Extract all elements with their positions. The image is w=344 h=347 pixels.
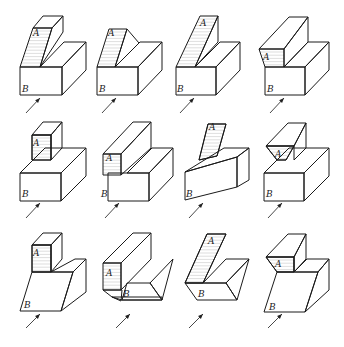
block-views-svg: ABABABABABABABABABABABAB bbox=[0, 0, 344, 347]
figure-r3c3: AB bbox=[185, 234, 249, 328]
label-b: B bbox=[266, 84, 274, 94]
block-face bbox=[108, 173, 149, 201]
label-b: B bbox=[268, 302, 276, 312]
hatch-pattern bbox=[176, 19, 218, 64]
figure-r3c4: AB bbox=[264, 234, 329, 328]
block-face bbox=[216, 42, 240, 95]
block-face bbox=[185, 148, 249, 172]
block-face bbox=[51, 122, 62, 160]
block-face bbox=[62, 42, 86, 95]
label-b: B bbox=[21, 84, 29, 94]
block-face bbox=[305, 259, 329, 312]
label-a: A bbox=[199, 18, 207, 28]
label-a: A bbox=[208, 122, 216, 132]
block-face bbox=[138, 42, 162, 95]
figure-r2c2: AB bbox=[100, 122, 173, 218]
label-b: B bbox=[185, 189, 193, 199]
diagram-canvas: ABABABABABABABABABABABAB bbox=[0, 0, 344, 347]
label-a: A bbox=[207, 236, 215, 246]
block-face bbox=[305, 42, 329, 95]
label-a: A bbox=[262, 52, 270, 62]
label-a: A bbox=[32, 138, 40, 148]
figure-r1c4: AB bbox=[259, 17, 329, 113]
block-face bbox=[32, 122, 62, 135]
block-face bbox=[284, 42, 329, 67]
figure-r1c1: AB bbox=[20, 16, 86, 113]
block-face bbox=[20, 148, 86, 173]
figure-r3c2: AB bbox=[103, 233, 173, 328]
block-face bbox=[32, 233, 62, 245]
block-face bbox=[284, 17, 308, 67]
block-face bbox=[51, 233, 62, 272]
label-b: B bbox=[21, 189, 29, 199]
block-face bbox=[150, 259, 173, 300]
block-face bbox=[149, 148, 173, 201]
block-face bbox=[33, 16, 63, 28]
figure-r1c3: AB bbox=[176, 16, 240, 113]
label-b: B bbox=[23, 300, 31, 310]
figure-r3c1: AB bbox=[20, 233, 86, 328]
label-b: B bbox=[98, 84, 106, 94]
block-face bbox=[103, 233, 151, 263]
block-face bbox=[195, 42, 240, 67]
label-a: A bbox=[107, 28, 115, 38]
label-b: B bbox=[100, 189, 108, 199]
label-b: B bbox=[265, 189, 273, 199]
label-a: A bbox=[274, 259, 282, 269]
label-a: A bbox=[105, 153, 113, 163]
block-face bbox=[61, 148, 86, 201]
label-a: A bbox=[32, 248, 40, 258]
figure-r2c3: AB bbox=[185, 122, 249, 218]
label-a: A bbox=[32, 28, 40, 38]
block-face bbox=[185, 157, 237, 200]
block-face bbox=[61, 259, 86, 311]
block-face bbox=[127, 148, 173, 173]
figure-r2c1: AB bbox=[20, 122, 86, 218]
block-face bbox=[185, 283, 237, 300]
label-b: B bbox=[197, 289, 205, 299]
block-face bbox=[259, 17, 308, 49]
figure-r1c2: AB bbox=[97, 28, 162, 113]
block-face bbox=[40, 16, 63, 67]
figure-r2c4: AB bbox=[264, 123, 329, 218]
label-b: B bbox=[122, 289, 130, 299]
block-face bbox=[237, 148, 249, 187]
label-b: B bbox=[176, 84, 184, 94]
block-face bbox=[294, 123, 306, 160]
label-a: A bbox=[105, 268, 113, 278]
block-face bbox=[294, 259, 329, 272]
label-a: A bbox=[274, 149, 282, 159]
block-face bbox=[121, 233, 151, 290]
block-face bbox=[103, 122, 151, 154]
hatch-pattern bbox=[185, 237, 226, 282]
block-face bbox=[304, 148, 329, 201]
block-face bbox=[264, 148, 329, 173]
